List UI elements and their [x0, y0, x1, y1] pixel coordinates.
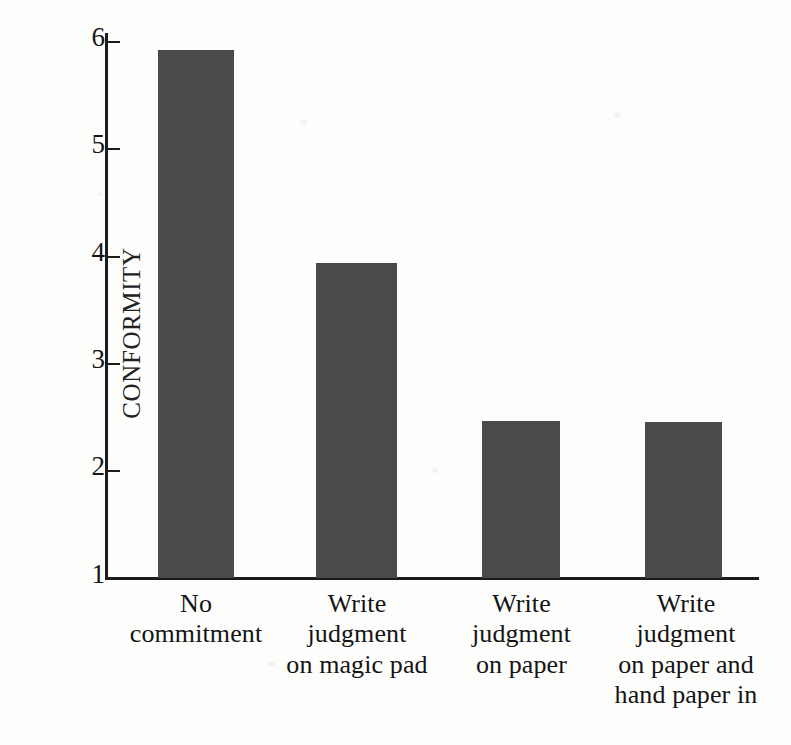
y-tick-label: 5 — [71, 131, 105, 158]
x-category-label-4: Write judgment on paper and hand paper i… — [592, 589, 780, 711]
y-tick-2 — [105, 470, 120, 472]
y-tick-6 — [105, 41, 120, 43]
bar-write-judgment-paper-hand-in — [645, 422, 722, 578]
scan-speckle — [97, 192, 102, 196]
y-tick-5 — [105, 148, 120, 150]
y-tick-label: 6 — [71, 24, 105, 51]
bar-write-judgment-magic-pad — [316, 263, 397, 578]
y-tick-3 — [105, 363, 120, 365]
y-tick-label: 4 — [71, 239, 105, 266]
y-tick-label: 2 — [71, 453, 105, 480]
x-category-label-2: Write judgment on magic pad — [266, 589, 448, 680]
chart-figure: CONFORMITY 6 5 4 3 2 1 No commitment Wri… — [0, 0, 791, 745]
y-tick-4 — [105, 256, 120, 258]
y-tick-label: 3 — [71, 346, 105, 373]
x-category-label-3: Write judgment on paper — [440, 589, 603, 680]
y-tick-label: 1 — [71, 561, 105, 588]
y-axis-line — [105, 33, 108, 580]
bar-no-commitment — [158, 50, 234, 578]
y-axis-title: CONFORMITY — [118, 218, 146, 448]
bar-write-judgment-paper — [482, 421, 560, 578]
x-category-label-1: No commitment — [106, 589, 286, 650]
